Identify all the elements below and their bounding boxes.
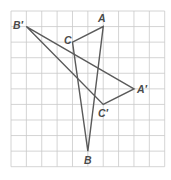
label-a-prime: A′ — [137, 84, 147, 95]
label-c-prime: C′ — [98, 108, 108, 119]
label-a: A — [98, 13, 106, 24]
label-b: B — [84, 155, 92, 166]
label-b-prime: B′ — [13, 20, 23, 31]
label-c: C — [64, 35, 72, 46]
